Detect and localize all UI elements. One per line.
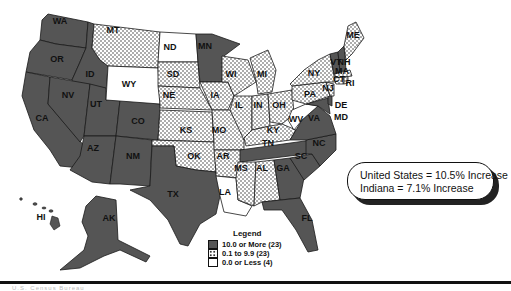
svg-text:NM: NM <box>126 151 140 161</box>
svg-text:KS: KS <box>180 125 193 135</box>
svg-text:NE: NE <box>163 90 176 100</box>
legend-item-dark: 10.0 or More (23) <box>208 240 282 249</box>
dark-swatch-icon <box>208 240 218 249</box>
svg-text:NY: NY <box>308 68 321 78</box>
svg-text:WA: WA <box>53 16 68 26</box>
svg-text:KY: KY <box>267 125 280 135</box>
svg-text:HI: HI <box>37 212 46 222</box>
svg-text:SC: SC <box>295 151 308 161</box>
map-legend: Legend 10.0 or More (23) 0.1 to 9.9 (23)… <box>208 229 282 267</box>
svg-text:NV: NV <box>62 90 75 100</box>
svg-text:OH: OH <box>272 100 286 110</box>
svg-text:MO: MO <box>212 125 227 135</box>
legend-label: 0.1 to 9.9 (23) <box>222 249 270 258</box>
state-ak <box>60 196 150 270</box>
svg-text:CT: CT <box>333 74 345 84</box>
svg-text:LA: LA <box>219 187 231 197</box>
svg-text:MD: MD <box>334 112 348 122</box>
legend-item-dotted: 0.1 to 9.9 (23) <box>208 249 282 258</box>
svg-text:OK: OK <box>187 151 201 161</box>
svg-text:WV: WV <box>289 114 304 124</box>
legend-label: 0.0 or Less (4) <box>222 258 272 267</box>
svg-text:DE: DE <box>335 100 348 110</box>
legend-item-white: 0.0 or Less (4) <box>208 258 282 267</box>
dotted-swatch-icon <box>208 249 218 258</box>
svg-text:AK: AK <box>103 213 116 223</box>
legend-label: 10.0 or More (23) <box>222 240 282 249</box>
svg-text:MN: MN <box>198 41 212 51</box>
svg-text:TN: TN <box>262 138 274 148</box>
svg-text:ND: ND <box>164 42 177 52</box>
white-swatch-icon <box>208 258 218 267</box>
svg-text:AR: AR <box>217 151 230 161</box>
state-mt <box>92 24 160 68</box>
svg-text:ID: ID <box>86 69 96 79</box>
svg-text:NJ: NJ <box>322 83 334 93</box>
svg-text:AL: AL <box>256 163 268 173</box>
svg-text:ME: ME <box>346 30 360 40</box>
svg-text:RI: RI <box>346 78 355 88</box>
indiana-summary-text: Indiana = 7.1% Increase <box>360 182 493 195</box>
svg-text:CA: CA <box>36 113 49 123</box>
svg-text:CO: CO <box>131 116 145 126</box>
footer-divider <box>0 281 511 284</box>
svg-text:AZ: AZ <box>87 143 99 153</box>
svg-text:MI: MI <box>257 69 267 79</box>
svg-text:UT: UT <box>90 99 102 109</box>
svg-text:WY: WY <box>122 79 137 89</box>
svg-text:IL: IL <box>235 100 244 110</box>
svg-text:TX: TX <box>167 189 179 199</box>
svg-text:GA: GA <box>276 163 290 173</box>
summary-callout: United States = 10.5% Increase Indiana =… <box>347 162 494 200</box>
svg-text:PA: PA <box>304 89 316 99</box>
svg-text:SD: SD <box>167 69 180 79</box>
svg-text:NC: NC <box>313 138 326 148</box>
svg-text:IA: IA <box>211 90 221 100</box>
us-summary-text: United States = 10.5% Increase <box>360 169 493 182</box>
svg-text:VA: VA <box>308 113 320 123</box>
legend-title: Legend <box>233 229 282 238</box>
svg-text:WI: WI <box>226 69 237 79</box>
svg-text:MT: MT <box>107 25 120 35</box>
svg-text:OR: OR <box>50 54 64 64</box>
state-me <box>344 22 364 60</box>
svg-text:FL: FL <box>302 213 313 223</box>
svg-text:MS: MS <box>234 163 248 173</box>
svg-text:IN: IN <box>254 100 263 110</box>
footer-source-text: U.S. Census Bureau <box>12 285 85 291</box>
